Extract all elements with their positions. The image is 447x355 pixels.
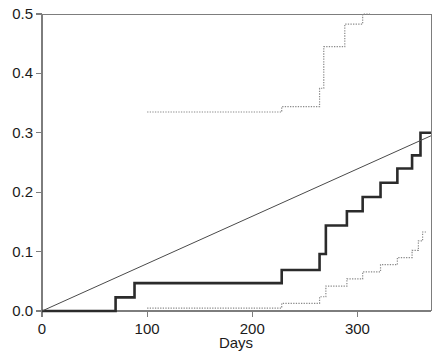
x-tick-label-3: 300: [345, 320, 370, 337]
x-tick-label-0: 0: [38, 320, 46, 337]
chart-background: [0, 0, 447, 355]
y-tick-label-1: 0.1: [12, 243, 33, 260]
cumulative-incidence-chart: 0100200300 0.00.10.20.30.40.5 Days: [0, 0, 447, 355]
y-tick-label-2: 0.2: [12, 183, 33, 200]
y-tick-label-4: 0.4: [12, 64, 33, 81]
y-tick-label-0: 0.0: [12, 302, 33, 319]
y-tick-label-3: 0.3: [12, 124, 33, 141]
chart-canvas: 0100200300 0.00.10.20.30.40.5 Days: [0, 0, 447, 355]
x-tick-label-1: 100: [135, 320, 160, 337]
y-tick-label-5: 0.5: [12, 5, 33, 22]
x-axis-title: Days: [219, 334, 253, 351]
